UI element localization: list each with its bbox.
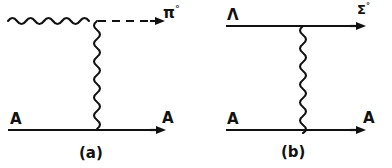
propagator-wavy-b — [300, 26, 306, 133]
label-top-outgoing-b: Σ° — [357, 3, 370, 16]
label-bottom-outgoing-b: A — [363, 111, 375, 126]
diagram-panel-a: π° A A (a) — [0, 0, 196, 168]
label-bottom-incoming-b: A — [227, 112, 239, 127]
label-top-outgoing-a: π° — [163, 4, 180, 21]
label-top-incoming-b: Λ — [227, 8, 239, 23]
diagram-panel-b: Λ Σ° A A (b) — [196, 0, 392, 168]
label-bottom-incoming-a: A — [10, 112, 22, 127]
caption-a: (a) — [79, 146, 103, 161]
feynman-figure: π° A A (a) — [0, 0, 392, 168]
propagator-wavy-a — [94, 21, 100, 129]
caption-b: (b) — [281, 145, 305, 160]
top-line-wavy-incoming-a — [8, 18, 89, 24]
label-bottom-outgoing-a: A — [162, 111, 174, 126]
